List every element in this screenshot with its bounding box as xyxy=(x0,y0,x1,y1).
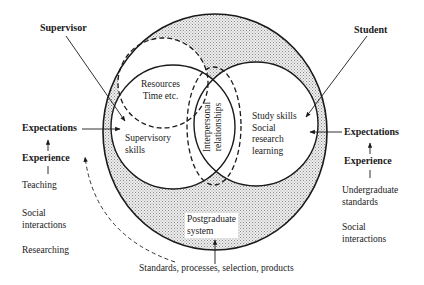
left-expectations-label: Expectations xyxy=(22,122,77,134)
right-experience-label: Experience xyxy=(344,155,392,167)
interpersonal-relationships-label: Interpersonal relationships xyxy=(202,93,226,161)
right-expectations-label: Expectations xyxy=(344,126,399,138)
supervisor-label: Supervisor xyxy=(40,22,87,34)
left-experience-label: Experience xyxy=(22,152,70,164)
standards-label: Standards, processes, selection, product… xyxy=(139,263,294,275)
right-item-undergraduate-standards: Undergraduate standards xyxy=(342,185,398,208)
right-item-social-interactions: Social interactions xyxy=(342,222,386,245)
supervision-diagram: Supervisor Student Resources Time etc. S… xyxy=(0,0,424,285)
left-item-researching: Researching xyxy=(22,245,69,257)
left-item-social-interactions: Social interactions xyxy=(22,208,66,231)
resources-label: Resources Time etc. xyxy=(141,79,180,102)
left-item-teaching: Teaching xyxy=(22,180,57,192)
supervisory-skills-label: Supervisory skills xyxy=(125,133,171,156)
student-skills-label: Study skills Social research learning xyxy=(252,111,297,157)
student-label: Student xyxy=(354,24,387,36)
postgraduate-system-label: Postgraduate system xyxy=(185,213,238,238)
student-arrow xyxy=(306,36,367,117)
